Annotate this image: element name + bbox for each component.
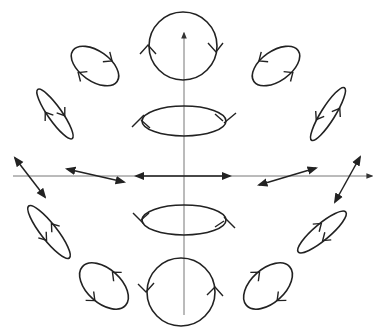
lower-left-ellipse	[67, 250, 140, 322]
lower-right-ellipse	[232, 250, 305, 322]
arrow-icon	[138, 283, 154, 292]
right-linear-outer	[335, 157, 360, 202]
top-circle	[140, 12, 223, 80]
upper-left-thin-ellipse	[28, 83, 82, 146]
lower-left-thin-ellipse	[19, 199, 79, 266]
diagram-canvas	[0, 0, 385, 336]
polarization-diagram	[0, 0, 385, 336]
arrow-icon	[208, 43, 223, 52]
bottom-circle	[138, 258, 223, 326]
left-linear-outer	[15, 158, 45, 197]
upper-right-ellipse	[242, 34, 310, 99]
upper-left-ellipse	[61, 34, 129, 99]
arrow-icon	[140, 45, 156, 54]
lower-right-thin-ellipse	[291, 203, 354, 261]
upper-right-thin-ellipse	[301, 81, 354, 146]
